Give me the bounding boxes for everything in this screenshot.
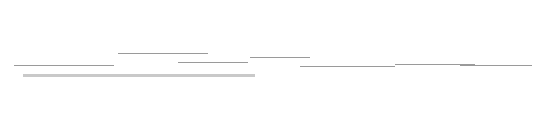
track-line-ext — [23, 74, 255, 77]
ground-line — [460, 65, 532, 66]
ground-line — [300, 66, 395, 67]
ground-line — [178, 62, 248, 63]
ground-line — [250, 57, 310, 58]
ground-line — [118, 53, 208, 54]
peloton-diagram — [0, 0, 544, 137]
ground-line — [14, 65, 114, 66]
